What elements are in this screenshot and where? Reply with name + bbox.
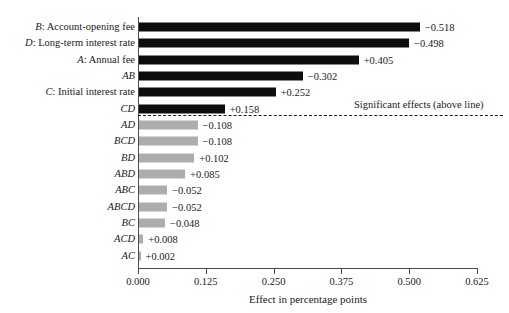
bar-row-label-description: : Long-term interest rate [33, 37, 135, 48]
x-axis-tick-label: 0.250 [262, 276, 286, 287]
bar-row-label: ABD [115, 169, 135, 180]
bar-row: BCD−0.108 [0, 133, 509, 149]
x-axis-tick-label: 0.625 [465, 276, 489, 287]
bar-row: A: Annual fee+0.405 [0, 52, 509, 68]
bar-row-label-code: BCD [114, 135, 135, 146]
bar-not-significant [139, 235, 143, 244]
bar-row-label: ACD [114, 234, 135, 245]
bar-row-label-code: BD [121, 151, 135, 162]
bar-value-label: +0.158 [230, 103, 260, 114]
bar-value-label: −0.052 [172, 201, 202, 212]
bar-significant [139, 55, 359, 64]
bar-row: B: Account-opening fee−0.518 [0, 19, 509, 35]
bar-value-label: −0.302 [308, 71, 338, 82]
x-axis-tick-mark [409, 269, 410, 274]
bar-row-label-code: AC [122, 249, 135, 260]
bar-row-label: D: Long-term interest rate [25, 38, 135, 49]
bar-value-label: +0.252 [281, 87, 311, 98]
bar-row: D: Long-term interest rate−0.498 [0, 35, 509, 51]
x-axis-tick-mark [341, 269, 342, 274]
x-axis-tick-mark [138, 269, 139, 274]
x-axis-tick-label: 0.375 [330, 276, 354, 287]
bar-row-label: A: Annual fee [77, 55, 135, 66]
bar-value-label: +0.102 [199, 152, 229, 163]
bar-not-significant [139, 251, 141, 260]
bar-not-significant [139, 186, 167, 195]
bar-row: ACD+0.008 [0, 231, 509, 247]
bar-row-label-description: : Annual fee [84, 54, 135, 65]
bar-row: ABD+0.085 [0, 166, 509, 182]
bar-significant [139, 104, 225, 113]
bar-row-label: BC [122, 218, 135, 229]
x-axis-tick-mark [477, 269, 478, 274]
bar-not-significant [139, 170, 185, 179]
x-axis-tick-mark [274, 269, 275, 274]
bar-row: AD−0.108 [0, 117, 509, 133]
bar-row-label: ABCD [108, 201, 135, 212]
significance-divider-line [138, 115, 503, 116]
bar-row: BC−0.048 [0, 215, 509, 231]
bar-row-label: C: Initial interest rate [45, 87, 135, 98]
bar-row-label-code: ABC [115, 184, 135, 195]
bar-row-label-code: AB [122, 70, 135, 81]
bar-row-label: BD [121, 152, 135, 163]
bar-not-significant [139, 202, 167, 211]
bar-row-label-description: : Account-opening fee [42, 21, 135, 32]
bar-row-label-code: ABD [115, 168, 135, 179]
bar-row-label: B: Account-opening fee [35, 22, 135, 33]
pareto-effects-chart: B: Account-opening fee−0.518D: Long-term… [0, 0, 509, 313]
bar-value-label: +0.008 [148, 234, 178, 245]
bar-row-label: CD [120, 103, 135, 114]
bar-row-label: BCD [114, 136, 135, 147]
bar-value-label: −0.048 [170, 217, 200, 228]
bar-row-label-code: BC [122, 217, 135, 228]
bar-value-label: −0.518 [425, 22, 455, 33]
bar-row-label-code: D [25, 37, 33, 48]
bar-value-label: +0.002 [146, 250, 176, 261]
bar-row-label-description: : Initial interest rate [52, 86, 135, 97]
bar-row-label-code: AD [121, 119, 135, 130]
bar-row-label-code: ABCD [108, 200, 135, 211]
bar-not-significant [139, 121, 198, 130]
bar-row: AC+0.002 [0, 247, 509, 263]
bar-row-label-code: CD [120, 102, 135, 113]
bar-row: ABC−0.052 [0, 182, 509, 198]
bar-row: BD+0.102 [0, 150, 509, 166]
bar-value-label: −0.108 [203, 120, 233, 131]
x-axis-tick-label: 0.000 [126, 276, 150, 287]
bar-row-label-code: C [45, 86, 52, 97]
bar-significant [139, 39, 409, 48]
bar-not-significant [139, 137, 198, 146]
x-axis-tick-label: 0.125 [194, 276, 218, 287]
bar-row-label: AC [122, 250, 135, 261]
bar-not-significant [139, 218, 165, 227]
x-axis-title: Effect in percentage points [138, 293, 478, 305]
bar-value-label: +0.085 [190, 169, 220, 180]
bar-row-label: AB [122, 71, 135, 82]
x-axis-tick-mark [206, 269, 207, 274]
bar-significant [139, 23, 420, 32]
bar-row-label: AD [121, 120, 135, 131]
plot-area: B: Account-opening fee−0.518D: Long-term… [0, 0, 509, 313]
bar-row: AB−0.302 [0, 68, 509, 84]
bar-significant [139, 72, 303, 81]
bar-not-significant [139, 153, 194, 162]
bar-row-label-code: ACD [114, 233, 135, 244]
bar-value-label: +0.405 [364, 54, 394, 65]
x-axis-tick-label: 0.500 [397, 276, 421, 287]
significance-divider-note: Significant effects (above line) [354, 99, 484, 110]
bar-value-label: −0.108 [203, 136, 233, 147]
bar-value-label: −0.052 [172, 185, 202, 196]
bar-row: ABCD−0.052 [0, 199, 509, 215]
bar-significant [139, 88, 276, 97]
bar-value-label: −0.498 [414, 38, 444, 49]
x-axis-line [138, 268, 478, 269]
bar-row-label: ABC [115, 185, 135, 196]
